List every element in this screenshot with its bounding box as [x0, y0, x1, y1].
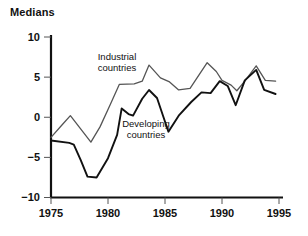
y-tick-label-neg10: −10	[6, 191, 40, 203]
series-annotation-industrial: Industrial countries	[88, 51, 146, 73]
x-tick-label-1980: 1980	[86, 207, 130, 219]
axes-group	[50, 35, 283, 198]
x-tick-label-1990: 1990	[200, 207, 244, 219]
x-tick-label-1995: 1995	[257, 207, 301, 219]
y-tick-label-10: 10	[6, 31, 40, 43]
y-tick-label-5: 5	[6, 71, 40, 83]
series-annotation-developing-line2: countries	[114, 129, 178, 140]
y-tick-label-0: 0	[6, 111, 40, 123]
series-annotation-industrial-line2: countries	[88, 62, 146, 73]
series-annotation-industrial-line1: Industrial	[88, 51, 146, 62]
y-tick-label-neg5: −5	[6, 151, 40, 163]
x-tick-label-1985: 1985	[143, 207, 187, 219]
chart-figure: Medians 10 5 0 −5 −10 1975 1980 1985 199…	[0, 0, 308, 236]
series-annotation-developing-line1: Developing	[114, 118, 178, 129]
series-annotation-developing: Developing countries	[114, 118, 178, 140]
x-tick-label-1975: 1975	[29, 207, 73, 219]
